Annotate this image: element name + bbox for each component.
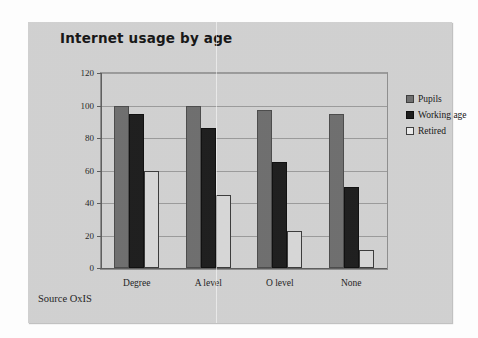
- bar[interactable]: [329, 114, 344, 268]
- y-axis-tick-label: 100: [81, 101, 95, 111]
- bar[interactable]: [344, 187, 359, 268]
- bar[interactable]: [201, 128, 216, 268]
- y-axis-tick-label: 0: [90, 263, 95, 273]
- y-axis-tick-label: 20: [85, 231, 94, 241]
- scanned-page: Internet usage by age 020406080100120 De…: [0, 0, 478, 338]
- legend-item-label: Pupils: [418, 94, 442, 104]
- y-axis-tick: [97, 73, 102, 74]
- legend-swatch-icon: [406, 95, 414, 103]
- bar[interactable]: [186, 106, 201, 269]
- y-axis-tick: [97, 203, 102, 204]
- y-axis-tick-label: 80: [85, 133, 94, 143]
- bar[interactable]: [216, 195, 231, 268]
- bar[interactable]: [287, 231, 302, 268]
- legend-item[interactable]: Working age: [406, 108, 467, 122]
- bar-group: [186, 72, 231, 268]
- x-axis-category-label: O level: [245, 278, 315, 288]
- y-axis-tick: [97, 171, 102, 172]
- legend-item[interactable]: Retired: [406, 124, 467, 138]
- legend-swatch-icon: [406, 127, 414, 135]
- bar-group: [114, 72, 159, 268]
- x-axis-category-label: Degree: [102, 278, 172, 288]
- bar-group: [257, 72, 302, 268]
- legend-item[interactable]: Pupils: [406, 92, 467, 106]
- legend-item-label: Retired: [418, 126, 446, 136]
- y-axis-tick: [97, 138, 102, 139]
- x-axis-category-label: A level: [173, 278, 243, 288]
- page-title: Internet usage by age: [60, 30, 232, 46]
- bar[interactable]: [359, 250, 374, 268]
- bar-group: [329, 72, 374, 268]
- legend-item-label: Working age: [418, 110, 467, 120]
- source-note: Source OxIS: [38, 293, 92, 304]
- chart-legend: PupilsWorking ageRetired: [406, 92, 467, 140]
- y-axis-tick-label: 120: [81, 68, 95, 78]
- y-axis-tick: [97, 268, 102, 269]
- x-axis-line: [101, 268, 387, 269]
- slide-panel: Internet usage by age 020406080100120 De…: [28, 22, 452, 323]
- bar[interactable]: [114, 106, 129, 269]
- x-axis-category-label: None: [316, 278, 386, 288]
- y-axis-tick-label: 60: [85, 166, 94, 176]
- y-axis-tick: [97, 236, 102, 237]
- y-axis-tick: [97, 106, 102, 107]
- bar[interactable]: [144, 171, 159, 269]
- y-axis-tick-label: 40: [85, 198, 94, 208]
- legend-swatch-icon: [406, 111, 414, 119]
- bar[interactable]: [129, 114, 144, 268]
- bar[interactable]: [272, 162, 287, 268]
- chart-plot-area: 020406080100120 DegreeA levelO levelNone: [100, 72, 388, 270]
- bar[interactable]: [257, 110, 272, 268]
